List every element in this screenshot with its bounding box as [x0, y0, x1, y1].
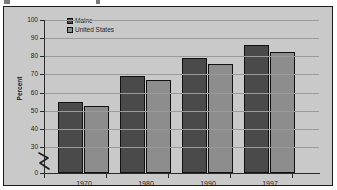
y-axis-tick-40 [40, 129, 45, 130]
y-axis-tick-30 [40, 147, 45, 148]
gridline-80 [45, 56, 319, 57]
gridline-50 [45, 111, 319, 112]
chart-legend: MaineUnited States [67, 16, 114, 34]
bar-maine-1980 [120, 76, 145, 173]
x-axis-label-1970: 1970 [54, 180, 114, 187]
bar-maine-1970 [58, 102, 83, 173]
x-axis-label-1997: 1997 [240, 180, 300, 187]
x-axis-tick-1970 [44, 174, 45, 178]
y-axis-label-60: 60 [8, 90, 38, 96]
y-axis-title: Percent [16, 66, 23, 112]
x-axis-tick-1990 [168, 174, 169, 178]
gridline-40 [45, 129, 319, 130]
bar-united-states-1990 [208, 64, 233, 173]
y-axis-label-80: 80 [8, 53, 38, 59]
y-axis-tick-50 [40, 111, 45, 112]
legend-label: United States [75, 25, 114, 34]
y-axis-label-100: 100 [8, 17, 38, 23]
gridline-100 [45, 20, 319, 21]
x-axis-tick-end [292, 174, 293, 178]
x-axis-label-1990: 1990 [178, 180, 238, 187]
y-axis-tick-60 [40, 93, 45, 94]
x-axis-line [44, 173, 320, 174]
bar-united-states-1970 [84, 106, 109, 173]
y-axis-tick-70 [40, 74, 45, 75]
x-axis-label-1980: 1980 [116, 180, 176, 187]
cutoff-mark-left [4, 0, 10, 4]
gridline-60 [45, 93, 319, 94]
y-axis-tick-90 [40, 38, 45, 39]
y-axis-tick-100 [40, 20, 45, 21]
chart-figure: 030405060708090100 Percent MaineUnited S… [3, 6, 333, 186]
y-axis-break-icon [36, 150, 52, 172]
y-axis-label-40: 40 [8, 126, 38, 132]
y-axis-label-70: 70 [8, 71, 38, 77]
bar-maine-1990 [182, 58, 207, 173]
bar-maine-1997 [244, 45, 269, 174]
gridline-70 [45, 74, 319, 75]
x-axis-tick-1997 [230, 174, 231, 178]
gridline-30 [45, 147, 319, 148]
y-axis-label-50: 50 [8, 108, 38, 114]
bar-united-states-1997 [270, 52, 295, 173]
cutoff-mark-right [96, 0, 100, 4]
legend-item-united-states: United States [67, 25, 114, 34]
y-axis-label-30: 30 [8, 144, 38, 150]
y-axis-label-0: 0 [8, 170, 38, 176]
gridline-90 [45, 38, 319, 39]
x-axis-tick-1980 [106, 174, 107, 178]
y-axis-tick-80 [40, 56, 45, 57]
y-axis-label-90: 90 [8, 35, 38, 41]
legend-swatch-icon [67, 27, 73, 33]
